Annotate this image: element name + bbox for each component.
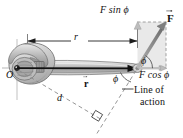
angle-phi-head-label: ϕ	[141, 56, 146, 66]
pivot-point-o-highlight	[15, 66, 17, 68]
position-vector-label-text: r	[84, 78, 89, 89]
force-vector-label-text: F	[167, 12, 174, 24]
force-sin-component-label: F sin ϕ	[100, 5, 129, 15]
position-vector-label: r	[84, 79, 89, 89]
moment-arm-label: d	[57, 93, 62, 103]
torque-wrench-figure: F sin ϕ F F cos ϕ r r d O ϕ ϕ Line of ac…	[0, 0, 183, 138]
vector-arrow-overbar-f	[166, 8, 173, 13]
line-of-action-label-line2: action	[140, 97, 165, 107]
angle-phi-below-handle-label: ϕ	[113, 74, 118, 84]
line-of-action-label-line1: Line of	[134, 85, 164, 95]
radius-dimension-label: r	[74, 32, 78, 42]
force-vector-label: F	[167, 13, 174, 24]
angle-phi-arc-below-handle	[121, 73, 132, 83]
pivot-label: O	[6, 70, 13, 80]
vector-arrow-overbar-r	[83, 74, 88, 79]
force-cos-component-label: F cos ϕ	[139, 70, 169, 80]
right-angle-marker	[92, 110, 103, 121]
